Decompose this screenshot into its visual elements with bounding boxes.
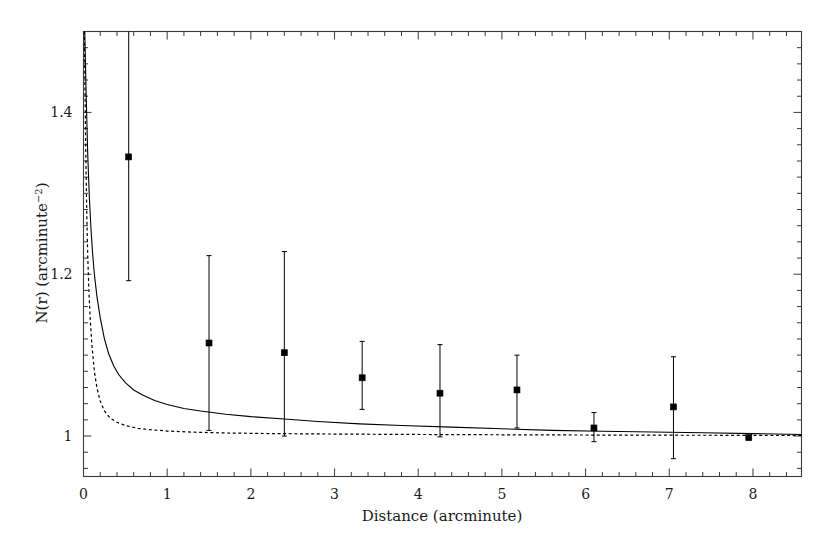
data-point-marker [126,154,132,160]
y-axis-title: N(r) (arcminute−2) [33,183,51,324]
y-axis-title-group: N(r) (arcminute−2) [33,183,51,324]
data-point-marker [670,404,676,410]
data-point-marker [206,340,212,346]
x-tick-label: 4 [414,486,423,502]
y-tick-label: 1 [64,428,73,444]
x-tick-label: 7 [665,486,674,502]
y-axis-title-exponent: −2 [33,188,44,203]
y-tick-label: 1.4 [50,104,72,120]
data-point-marker [359,375,365,381]
plot-background [0,0,834,550]
data-point-marker [746,435,752,441]
data-point-marker [514,387,520,393]
x-tick-label: 6 [581,486,590,502]
x-tick-label: 3 [330,486,339,502]
figure-container: 01234567811.21.4 Distance (arcminute) N(… [0,0,834,550]
data-point-marker [437,390,443,396]
scatter-plot: 01234567811.21.4 Distance (arcminute) N(… [0,0,834,550]
x-axis-title: Distance (arcminute) [362,507,523,525]
x-tick-label: 5 [497,486,506,502]
y-tick-label: 1.2 [50,266,72,282]
y-axis-title-end: ) [33,183,51,189]
x-tick-label: 2 [246,486,255,502]
y-axis-title-main: N(r) (arcminute [33,203,51,324]
x-tick-label: 1 [163,486,172,502]
data-point-marker [591,425,597,431]
data-point-marker [281,350,287,356]
x-tick-label: 8 [749,486,758,502]
x-tick-label: 0 [79,486,88,502]
